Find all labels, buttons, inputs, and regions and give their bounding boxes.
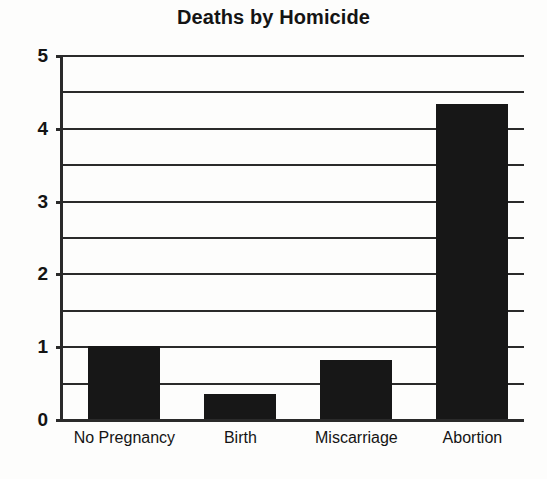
y-axis-tick-label: 3 bbox=[14, 191, 48, 210]
gridline bbox=[60, 91, 524, 93]
y-axis-tick-labels: 012345 bbox=[12, 55, 48, 419]
y-axis-tick-label: 0 bbox=[14, 410, 48, 429]
x-axis-tick-label: Birth bbox=[224, 428, 257, 447]
bar bbox=[88, 346, 160, 419]
bar bbox=[436, 104, 508, 419]
x-axis-tick-label: Abortion bbox=[443, 428, 503, 447]
bar bbox=[204, 394, 276, 419]
chart-figure: Deaths by Homicide 012345 No PregnancyBi… bbox=[0, 0, 547, 479]
y-axis-tick-label: 1 bbox=[14, 337, 48, 356]
gridline bbox=[60, 419, 524, 422]
y-axis-tick-label: 2 bbox=[14, 264, 48, 283]
x-axis-tick-label: Miscarriage bbox=[315, 428, 398, 447]
chart-title: Deaths by Homicide bbox=[0, 6, 547, 29]
x-axis-tick-labels: No PregnancyBirthMiscarriageAbortion bbox=[60, 428, 524, 454]
y-axis-tick-label: 4 bbox=[14, 118, 48, 137]
gridline bbox=[60, 55, 524, 57]
plot-area bbox=[60, 55, 524, 419]
x-axis-tick-label: No Pregnancy bbox=[74, 428, 175, 447]
y-axis-tick-label: 5 bbox=[14, 46, 48, 65]
bar bbox=[320, 360, 392, 419]
